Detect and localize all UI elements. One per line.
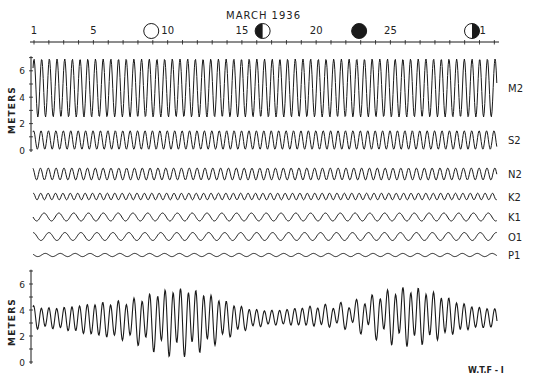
top-panel-y-axis: 0246 [19,56,33,155]
label-m2: M2 [508,83,523,94]
y-tick-label: 0 [19,358,25,368]
y-tick-label: 6 [19,66,25,76]
day-label: 10 [161,25,174,36]
constituent-waves [33,59,497,257]
date-axis [30,40,499,45]
credit-label: W.T.F - I [468,366,504,375]
bottom-panel-y-axis: 0246 [19,270,33,368]
full-moon-icon [144,24,159,39]
y-axis-label-bottom: METERS [7,298,17,346]
constituent-labels: M2S2N2K2K1O1P1 [508,83,523,261]
y-axis-label-top: METERS [7,86,17,134]
wave-o1 [33,233,497,241]
day-label: 25 [384,25,397,36]
label-p1: P1 [508,250,520,261]
day-label: 15 [236,25,249,36]
y-tick-label: 2 [19,332,25,342]
day-label: 5 [90,25,96,36]
y-tick-label: 0 [19,146,25,156]
label-n2: N2 [508,169,522,180]
day-label: 20 [310,25,323,36]
wave-k2 [33,193,497,200]
wave-k1 [33,213,497,221]
predicted-tide-curve [33,287,497,357]
y-tick-label: 4 [19,306,25,316]
new-moon-icon [352,24,367,39]
wave-n2 [33,168,497,180]
last-quarter-moon-icon [255,24,270,39]
wave-s2 [33,131,497,149]
label-o1: O1 [508,232,522,243]
y-tick-label: 6 [19,280,25,290]
y-tick-label: 2 [19,119,25,129]
first-quarter-moon-icon [465,24,480,39]
day-label: 1 [31,25,37,36]
wave-m2 [33,59,497,117]
label-k2: K2 [508,192,521,203]
label-s2: S2 [508,135,521,146]
chart-title: MARCH 1936 [226,10,301,21]
wave-p1 [33,253,497,256]
label-k1: K1 [508,212,521,223]
y-tick-label: 4 [19,93,25,103]
tide-constituents-figure: MARCH 1936 151015202531 0246 METERS M2S2… [0,0,533,387]
